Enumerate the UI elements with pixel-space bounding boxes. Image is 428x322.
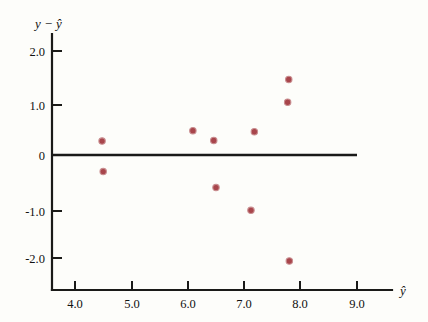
- y-tick-label-neg1: -1.0: [25, 205, 45, 219]
- x-tick-label-5: 5.0: [124, 297, 140, 311]
- y-tick-label-2: 2.0: [29, 45, 45, 59]
- data-point: [211, 137, 217, 143]
- residual-plot: 2.0 1.0 0 -1.0 -2.0 4.0 5.0 6.0 7.0 8.0 …: [0, 0, 428, 322]
- data-point: [286, 258, 292, 264]
- data-point: [284, 99, 290, 105]
- y-tick-label-neg2: -2.0: [25, 252, 45, 266]
- data-point: [100, 168, 106, 174]
- scatter-chart-canvas: 2.0 1.0 0 -1.0 -2.0 4.0 5.0 6.0 7.0 8.0 …: [0, 0, 428, 322]
- x-tick-label-6: 6.0: [180, 297, 196, 311]
- y-tick-label-1: 1.0: [29, 99, 45, 113]
- x-tick-label-8: 8.0: [292, 297, 308, 311]
- data-point: [286, 76, 292, 82]
- x-tick-label-4: 4.0: [67, 297, 83, 311]
- data-point: [190, 128, 196, 134]
- data-point: [251, 129, 257, 135]
- data-point: [213, 184, 219, 190]
- data-point: [99, 138, 105, 144]
- y-axis-title: y − ŷ: [33, 16, 62, 31]
- x-tick-label-9: 9.0: [349, 297, 365, 311]
- x-axis-ticks: [75, 281, 357, 290]
- data-point: [248, 207, 254, 213]
- x-axis-title: ŷ: [398, 283, 406, 298]
- x-tick-label-7: 7.0: [236, 297, 252, 311]
- y-tick-label-0: 0: [39, 149, 45, 163]
- data-points-layer: [99, 76, 293, 264]
